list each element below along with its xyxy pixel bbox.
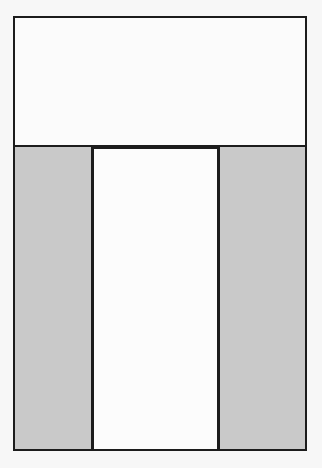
top-panel [13, 16, 307, 147]
bottom-frame-outline [13, 145, 307, 451]
